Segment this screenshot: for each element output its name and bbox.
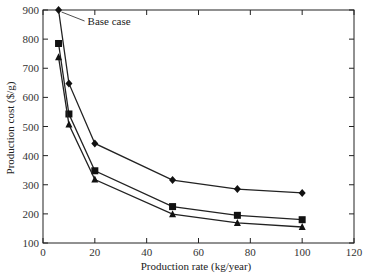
annotation-arrow [62, 12, 85, 21]
diamond-marker [169, 176, 176, 184]
plot-frame [43, 10, 354, 243]
y-tick-label: 200 [23, 208, 40, 220]
x-tick-label: 60 [193, 246, 205, 258]
x-tick-label: 80 [245, 246, 257, 258]
x-tick-label: 20 [89, 246, 101, 258]
series-line-square [59, 43, 303, 219]
y-tick-label: 500 [23, 121, 40, 133]
square-marker [299, 216, 306, 223]
square-marker [169, 203, 176, 210]
x-axis-label: Production rate (kg/year) [141, 260, 252, 273]
annotation-label: Base case [88, 15, 131, 27]
y-tick-label: 900 [23, 4, 40, 16]
y-tick-label: 700 [23, 62, 40, 74]
y-tick-label: 800 [23, 33, 40, 45]
diamond-marker [91, 139, 98, 147]
x-tick-label: 40 [141, 246, 153, 258]
y-tick-label: 400 [23, 150, 40, 162]
line-chart: 0204060801001201002003004005006007008009… [0, 0, 368, 278]
square-marker [234, 212, 241, 219]
square-marker [55, 40, 62, 47]
y-axis-label: Production cost ($/g) [4, 81, 17, 174]
series-line-diamond [59, 10, 303, 193]
triangle-marker [91, 176, 98, 183]
y-tick-label: 100 [23, 237, 40, 249]
x-tick-label: 100 [294, 246, 311, 258]
y-tick-label: 600 [23, 91, 40, 103]
diamond-marker [299, 189, 306, 197]
triangle-marker [65, 120, 72, 127]
x-tick-label: 0 [40, 246, 46, 258]
diamond-marker [234, 185, 241, 193]
diamond-marker [55, 6, 62, 14]
y-tick-label: 300 [23, 179, 40, 191]
diamond-marker [65, 79, 72, 87]
x-tick-label: 120 [346, 246, 363, 258]
